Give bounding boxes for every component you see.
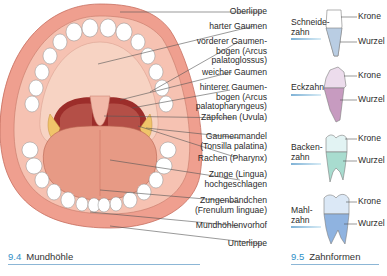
label-hinterer-gaumenbogen: hinterer Gaumen- bogen (Arcus palatophar… [196, 83, 267, 112]
anatomy-figure-page: Oberlippe harter Gaumen vorderer Gaumen-… [0, 0, 387, 276]
label-oberlippe: Oberlippe [230, 7, 267, 17]
figure-number: 9.5 [291, 251, 304, 262]
label-gaumenmandel: Gaumenmandel (Tonsilla palatina) [200, 132, 267, 151]
tooth-name-underline [291, 94, 321, 96]
label-wurzel: Wurzel [358, 156, 385, 166]
label-mundhoehlenvorhof: Mundhöhlenvorhof [196, 221, 267, 231]
label-krone: Krone [358, 134, 381, 144]
tooth-name-underline [291, 163, 321, 165]
label-unterlippe: Unterlippe [228, 239, 267, 249]
tooth-name-backenzahn: Backen- zahn [291, 143, 323, 162]
figure-title: Zahnformen [309, 251, 360, 262]
tooth-name-eckzahn: Eckzahn [291, 83, 324, 93]
tooth-name-mahlzahn: Mahl- zahn [291, 206, 313, 225]
label-krone: Krone [358, 197, 381, 207]
caption-rule [8, 264, 200, 265]
label-zungenbaendchen: Zungenbändchen (Frenulum linguae) [195, 196, 267, 215]
figure-title: Mundhöhle [26, 251, 73, 262]
caption-mundhoehle: 9.4Mundhöhle [8, 251, 73, 262]
label-vorderer-gaumenbogen: vorderer Gaumen- bogen (Arcus palatoglos… [197, 37, 267, 66]
mouth-illustration [0, 0, 387, 276]
caption-zahnformen: 9.5Zahnformen [291, 251, 360, 262]
tooth-name-underline [291, 226, 321, 228]
label-zaepfchen: Zäpfchen (Uvula) [201, 113, 267, 123]
label-wurzel: Wurzel [358, 95, 385, 105]
tooth-name-schneidezahn: Schneide- zahn [291, 18, 330, 37]
label-krone: Krone [358, 12, 381, 22]
label-harter-gaumen: harter Gaumen [209, 22, 267, 32]
label-weicher-gaumen: weicher Gaumen [202, 68, 267, 78]
label-wurzel: Wurzel [358, 219, 385, 229]
tooth-name-underline [291, 38, 321, 40]
label-wurzel: Wurzel [358, 37, 385, 47]
label-rachen: Rachen (Pharynx) [198, 154, 267, 164]
caption-rule [291, 264, 379, 265]
label-zunge: Zunge (Lingua) hochgeschlagen [204, 170, 267, 189]
figure-number: 9.4 [8, 251, 21, 262]
label-krone: Krone [358, 71, 381, 81]
